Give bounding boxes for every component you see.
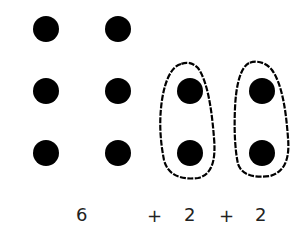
term-two-a: 2 — [184, 206, 195, 224]
dot-diagram — [0, 0, 306, 231]
dot — [105, 78, 131, 104]
dot — [249, 140, 275, 166]
term-six: 6 — [76, 206, 87, 224]
dot — [177, 78, 203, 104]
plus-sign: + — [147, 207, 162, 225]
dot — [105, 140, 131, 166]
dot — [249, 78, 275, 104]
dot — [33, 140, 59, 166]
dot — [33, 16, 59, 42]
term-two-b: 2 — [255, 206, 266, 224]
plus-sign: + — [219, 207, 234, 225]
left-dot-grid — [33, 16, 131, 166]
group-one — [160, 63, 214, 179]
dot — [105, 16, 131, 42]
dot — [177, 140, 203, 166]
group-two — [235, 62, 289, 177]
dot — [33, 78, 59, 104]
